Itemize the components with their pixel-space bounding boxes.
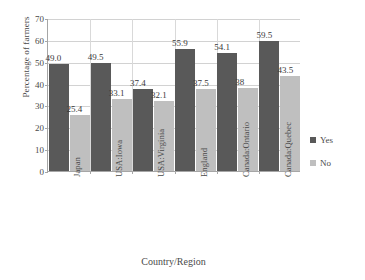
data-label: 32.1: [151, 91, 167, 100]
y-axis-tick: [45, 85, 48, 86]
data-label: 37.4: [130, 79, 146, 88]
data-label: 25.4: [67, 105, 83, 114]
data-label: 55.9: [172, 39, 188, 48]
bar-yes-4: [217, 53, 237, 171]
y-axis-tick-label: 40: [22, 81, 44, 89]
x-axis-category-label: USA:Iowa: [114, 140, 124, 177]
y-axis-tick: [45, 41, 48, 42]
chart-legend: YesNo: [310, 135, 333, 181]
legend-label: No: [320, 158, 331, 168]
data-label: 49.0: [46, 54, 62, 63]
data-label: 43.5: [277, 66, 293, 75]
y-axis-tick-label: 50: [22, 59, 44, 67]
data-label: 38: [235, 78, 244, 87]
y-axis-tick-label: 0: [22, 168, 44, 176]
data-label: 49.5: [88, 53, 104, 62]
data-label: 33.1: [109, 89, 125, 98]
y-axis-tick-labels: 010203040506070: [22, 19, 44, 172]
y-axis-tick-label: 10: [22, 146, 44, 154]
y-axis-tick: [45, 128, 48, 129]
x-axis-category-label: Canada:Ontario: [241, 122, 251, 177]
bar-yes-0: [49, 64, 69, 171]
plot-area: 49.025.449.533.137.432.155.937.554.13859…: [47, 19, 300, 172]
x-axis-category-label: USA:Virginia: [156, 129, 166, 177]
legend-item-yes[interactable]: Yes: [310, 135, 333, 145]
y-axis-tick: [45, 172, 48, 173]
x-axis-tick: [175, 171, 176, 174]
legend-swatch-icon: [310, 137, 316, 143]
legend-label: Yes: [320, 135, 333, 145]
x-axis-tick: [90, 171, 91, 174]
y-axis-tick-label: 70: [22, 15, 44, 23]
legend-swatch-icon: [310, 160, 316, 166]
x-axis-tick: [132, 171, 133, 174]
legend-item-no[interactable]: No: [310, 158, 333, 168]
bar-yes-5: [259, 41, 279, 171]
bar-yes-3: [175, 49, 195, 171]
y-axis-tick: [45, 106, 48, 107]
bar-yes-1: [91, 63, 111, 171]
x-axis-category-label: Canada:Quebec: [283, 122, 293, 177]
data-label: 37.5: [193, 79, 209, 88]
x-axis-tick: [259, 171, 260, 174]
data-label: 54.1: [214, 43, 230, 52]
bar-chart: Percentage of farmers 010203040506070 49…: [0, 0, 365, 280]
y-axis-tick-label: 20: [22, 124, 44, 132]
bar-yes-2: [133, 89, 153, 171]
y-axis-tick-label: 30: [22, 102, 44, 110]
x-axis-tick: [217, 171, 218, 174]
x-axis-category-label: Japan: [72, 157, 82, 177]
y-axis-tick: [45, 150, 48, 151]
data-label: 59.5: [256, 31, 272, 40]
y-axis-tick-label: 60: [22, 37, 44, 45]
x-axis-title: Country/Region: [47, 256, 300, 267]
y-axis-tick: [45, 19, 48, 20]
x-axis-category-label: England: [199, 148, 209, 177]
